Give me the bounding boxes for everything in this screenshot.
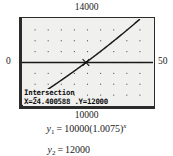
equation-list: y1=10000(1.0075)x y2=12000 — [0, 119, 173, 156]
calculator-screen-inner: Intersection X=24.400588 .Y=12000 — [22, 19, 153, 106]
equation-y1-equals: = — [55, 123, 65, 134]
equation-y2-rhs: 12000 — [65, 144, 90, 155]
equation-row-y2: y2=12000 — [0, 140, 173, 156]
readout-intersection-coords: X=24.400588 .Y=12000 — [23, 98, 108, 106]
equation-y1-subscript: 1 — [51, 128, 55, 136]
readout-intersection-label: Intersection — [23, 89, 74, 97]
equation-y1-exponent: x — [123, 122, 126, 130]
axis-label-left: 0 — [6, 57, 11, 67]
equation-y2-equals: = — [55, 144, 65, 155]
calculator-screen: Intersection X=24.400588 .Y=12000 — [19, 17, 155, 109]
axis-label-right: 50 — [158, 57, 168, 67]
equation-y1-rhs: 10000(1.0075) — [64, 123, 123, 134]
equation-row-y1: y1=10000(1.0075)x — [0, 119, 173, 140]
axis-label-top: 14000 — [0, 3, 173, 13]
calculator-figure: 14000 0 50 10000 Intersection X=24.400 — [0, 0, 173, 156]
